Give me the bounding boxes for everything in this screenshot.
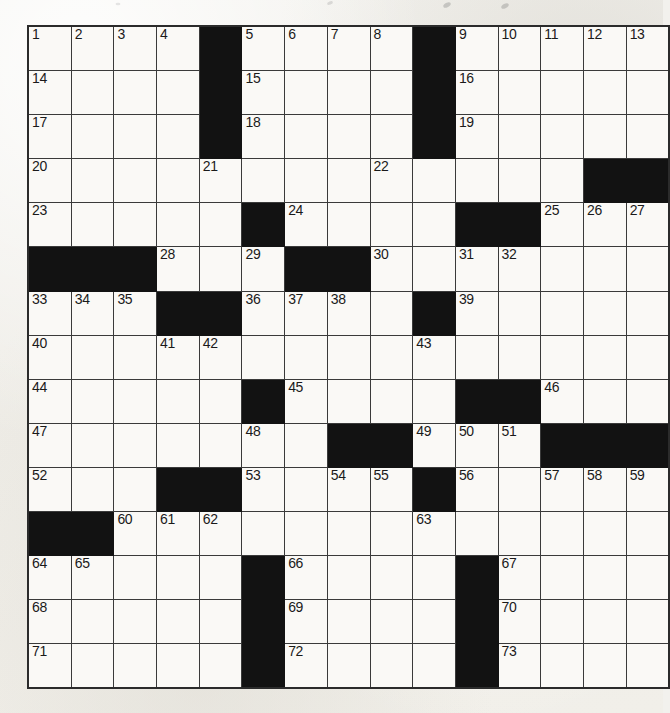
crossword-cell[interactable]: 20	[28, 159, 71, 203]
crossword-cell[interactable]: 29	[242, 247, 285, 291]
crossword-cell[interactable]: 67	[498, 556, 541, 600]
crossword-cell[interactable]	[583, 556, 626, 600]
crossword-cell[interactable]	[541, 291, 584, 335]
crossword-cell[interactable]	[114, 379, 157, 423]
crossword-cell[interactable]	[157, 644, 200, 689]
crossword-cell[interactable]	[498, 71, 541, 115]
crossword-cell[interactable]	[541, 71, 584, 115]
crossword-cell[interactable]: 7	[327, 26, 370, 71]
crossword-cell[interactable]: 22	[370, 159, 413, 203]
crossword-cell[interactable]	[71, 335, 114, 379]
crossword-cell[interactable]	[541, 159, 584, 203]
crossword-cell[interactable]	[413, 600, 456, 644]
crossword-cell[interactable]	[413, 247, 456, 291]
crossword-cell[interactable]	[583, 600, 626, 644]
crossword-cell[interactable]	[71, 159, 114, 203]
crossword-cell[interactable]: 33	[28, 291, 71, 335]
crossword-cell[interactable]	[626, 335, 669, 379]
crossword-cell[interactable]: 56	[455, 467, 498, 511]
crossword-cell[interactable]: 18	[242, 115, 285, 159]
crossword-cell[interactable]	[327, 335, 370, 379]
crossword-cell[interactable]: 66	[285, 556, 328, 600]
crossword-cell[interactable]	[370, 71, 413, 115]
crossword-cell[interactable]	[541, 600, 584, 644]
crossword-cell[interactable]: 35	[114, 291, 157, 335]
crossword-cell[interactable]: 59	[626, 467, 669, 511]
crossword-cell[interactable]	[114, 467, 157, 511]
crossword-cell[interactable]: 36	[242, 291, 285, 335]
crossword-cell[interactable]: 2	[71, 26, 114, 71]
crossword-cell[interactable]	[285, 335, 328, 379]
crossword-cell[interactable]: 26	[583, 203, 626, 247]
crossword-cell[interactable]	[498, 159, 541, 203]
crossword-cell[interactable]	[583, 379, 626, 423]
crossword-cell[interactable]: 6	[285, 26, 328, 71]
crossword-cell[interactable]: 61	[157, 512, 200, 556]
crossword-cell[interactable]: 10	[498, 26, 541, 71]
crossword-cell[interactable]	[114, 159, 157, 203]
crossword-cell[interactable]: 64	[28, 556, 71, 600]
crossword-cell[interactable]	[370, 512, 413, 556]
crossword-cell[interactable]: 73	[498, 644, 541, 689]
crossword-cell[interactable]	[327, 71, 370, 115]
crossword-cell[interactable]	[327, 512, 370, 556]
crossword-cell[interactable]	[370, 115, 413, 159]
crossword-cell[interactable]	[114, 600, 157, 644]
crossword-cell[interactable]	[583, 644, 626, 689]
crossword-cell[interactable]	[626, 556, 669, 600]
crossword-cell[interactable]: 3	[114, 26, 157, 71]
crossword-cell[interactable]	[285, 115, 328, 159]
crossword-cell[interactable]	[413, 556, 456, 600]
crossword-cell[interactable]	[327, 115, 370, 159]
crossword-cell[interactable]	[541, 247, 584, 291]
crossword-cell[interactable]: 9	[455, 26, 498, 71]
crossword-cell[interactable]: 68	[28, 600, 71, 644]
crossword-cell[interactable]	[541, 512, 584, 556]
crossword-cell[interactable]	[199, 203, 242, 247]
crossword-cell[interactable]	[413, 203, 456, 247]
crossword-grid[interactable]: 1234567891011121314151617181920212223242…	[27, 25, 670, 689]
crossword-cell[interactable]: 12	[583, 26, 626, 71]
crossword-cell[interactable]: 39	[455, 291, 498, 335]
crossword-cell[interactable]	[114, 644, 157, 689]
crossword-cell[interactable]: 62	[199, 512, 242, 556]
crossword-cell[interactable]	[114, 423, 157, 467]
crossword-cell[interactable]: 32	[498, 247, 541, 291]
crossword-cell[interactable]	[455, 512, 498, 556]
crossword-cell[interactable]: 71	[28, 644, 71, 689]
crossword-cell[interactable]: 49	[413, 423, 456, 467]
crossword-cell[interactable]	[157, 203, 200, 247]
crossword-cell[interactable]	[455, 159, 498, 203]
crossword-cell[interactable]	[626, 247, 669, 291]
crossword-cell[interactable]	[157, 379, 200, 423]
crossword-cell[interactable]	[626, 115, 669, 159]
crossword-cell[interactable]	[370, 291, 413, 335]
crossword-cell[interactable]	[327, 159, 370, 203]
crossword-cell[interactable]	[285, 423, 328, 467]
crossword-cell[interactable]	[114, 203, 157, 247]
crossword-cell[interactable]: 13	[626, 26, 669, 71]
crossword-cell[interactable]: 34	[71, 291, 114, 335]
crossword-cell[interactable]: 55	[370, 467, 413, 511]
crossword-cell[interactable]: 8	[370, 26, 413, 71]
crossword-cell[interactable]: 24	[285, 203, 328, 247]
crossword-cell[interactable]	[541, 335, 584, 379]
crossword-cell[interactable]	[71, 467, 114, 511]
crossword-cell[interactable]	[114, 556, 157, 600]
crossword-cell[interactable]: 47	[28, 423, 71, 467]
crossword-cell[interactable]	[370, 644, 413, 689]
crossword-cell[interactable]: 52	[28, 467, 71, 511]
crossword-cell[interactable]: 48	[242, 423, 285, 467]
crossword-cell[interactable]: 17	[28, 115, 71, 159]
crossword-cell[interactable]	[71, 423, 114, 467]
crossword-cell[interactable]: 1	[28, 26, 71, 71]
crossword-cell[interactable]	[157, 71, 200, 115]
crossword-cell[interactable]: 16	[455, 71, 498, 115]
crossword-cell[interactable]	[541, 556, 584, 600]
crossword-cell[interactable]: 50	[455, 423, 498, 467]
crossword-cell[interactable]	[71, 71, 114, 115]
crossword-cell[interactable]: 27	[626, 203, 669, 247]
crossword-cell[interactable]	[114, 335, 157, 379]
crossword-cell[interactable]	[626, 600, 669, 644]
crossword-cell[interactable]	[583, 115, 626, 159]
